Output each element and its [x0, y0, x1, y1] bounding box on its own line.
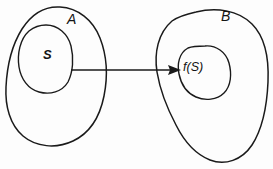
blob-B-outline [156, 10, 268, 163]
label-image-fS: f(S) [183, 61, 203, 74]
label-subset-S: S [43, 48, 52, 61]
label-set-A: A [67, 12, 76, 26]
label-set-B: B [221, 9, 230, 23]
set-mapping-diagram: A B S f(S) [0, 0, 273, 169]
diagram-canvas [0, 0, 273, 169]
